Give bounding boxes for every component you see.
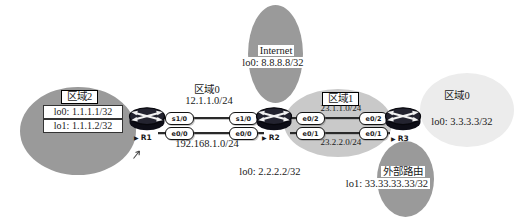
- router-r3-icon: [383, 105, 423, 134]
- r3-lo0: lo0: 3.3.3.3/32: [424, 116, 500, 128]
- area2-title: 区域2: [61, 90, 98, 104]
- internet-lo0: lo0: 8.8.8.8/32: [234, 57, 312, 69]
- external-route-title: 外部路由: [374, 166, 432, 178]
- pointer-icon: ▶: [134, 135, 139, 141]
- area0-mid-title: 区域0: [186, 84, 228, 96]
- r2-interface-e0-1: e0/1: [296, 127, 325, 140]
- router-r1-icon: [127, 105, 167, 134]
- internet-title: Internet: [250, 45, 302, 57]
- r1-interface-e0-0: e0/0: [165, 127, 194, 140]
- area0-right-title: 区域0: [434, 90, 480, 102]
- area0-right-cloud: [420, 73, 514, 147]
- area2-lo0-box: lo0: 1.1.1.1/32: [43, 105, 123, 119]
- r2-interface-e0-2: e0/2: [296, 112, 325, 125]
- router-r2-icon: [254, 105, 294, 134]
- router-r3-label: ▶ R3: [391, 134, 409, 143]
- router-r2-label: ▶ R2: [262, 133, 280, 142]
- network-topology-diagram: 区域2 lo0: 1.1.1.1/32 lo1: 1.1.1.2/32 区域0 …: [0, 0, 516, 224]
- area2-lo1-box: lo1: 1.1.1.2/32: [43, 119, 123, 133]
- network-12-1-1-0: 12.1.1.0/24: [176, 95, 242, 107]
- r3-lo1: lo1: 33.33.33.33/32: [333, 178, 441, 190]
- pointer-icon: ▶: [391, 136, 396, 142]
- cursor-arrow-icon: [131, 147, 143, 160]
- pointer-icon: ▶: [262, 135, 267, 141]
- r1-interface-s1-0: s1/0: [165, 112, 194, 125]
- router-r1-label: ▶ R1: [134, 133, 152, 142]
- r2-lo0: lo0: 2.2.2.2/32: [230, 166, 310, 178]
